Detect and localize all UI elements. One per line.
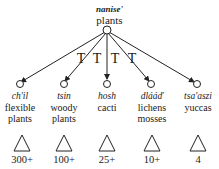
child-english-line1: woody [42,102,86,113]
subtree-count-4: 10+ [132,154,172,165]
child-node-circle-5 [194,81,201,88]
subtree-count-2: 100+ [44,154,84,165]
child-native-name: ch'il [0,91,42,102]
child-english-line1: cacti [85,102,129,113]
child-english-line2: mosses [130,113,174,124]
root-node-circle [103,26,111,34]
child-nodes [17,81,201,88]
child-label-5: tsa'aszi yuccas [176,91,219,113]
subtree-triangles [14,135,206,151]
edge-5 [109,32,194,82]
subtree-triangle-4 [144,135,160,151]
child-node-circle-1 [17,81,24,88]
child-english-line1: yuccas [176,102,219,113]
child-label-4: dlááď lichens mosses [130,91,174,124]
subtree-triangle-2 [56,135,72,151]
subtree-count-1: 300+ [2,154,42,165]
child-native-name: dlááď [130,91,174,102]
child-node-circle-4 [148,81,155,88]
child-english-line2: plants [42,113,86,124]
child-node-circle-2 [61,81,68,88]
child-label-1: ch'il flexible plants [0,91,42,124]
child-label-2: tsin woody plants [42,91,86,124]
child-native-name: tsin [42,91,86,102]
subtree-triangle-1 [14,135,30,151]
relation-mark-1: T [75,51,87,67]
child-english-line1: lichens [130,102,174,113]
subtree-triangle-3 [99,135,115,151]
relation-mark-2: T [91,51,103,67]
child-native-name: hosh [85,91,129,102]
child-english-line1: flexible [0,102,42,113]
subtree-count-3: 25+ [87,154,127,165]
taxonomy-tree [0,0,219,169]
relation-mark-4: T [126,51,138,67]
edges [21,32,194,82]
subtree-triangle-5 [190,135,206,151]
child-label-3: hosh cacti [85,91,129,113]
child-node-circle-3 [104,81,111,88]
child-english-line2: plants [0,113,42,124]
subtree-count-5: 4 [178,154,218,165]
relation-mark-3: T [109,51,121,67]
child-native-name: tsa'aszi [176,91,219,102]
